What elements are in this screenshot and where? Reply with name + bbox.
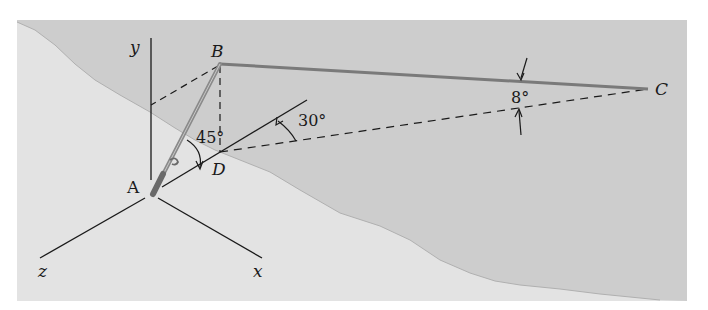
label-point-b: B bbox=[210, 41, 224, 61]
label-z-axis: z bbox=[37, 261, 48, 281]
label-y-axis: y bbox=[129, 37, 140, 57]
label-point-c: C bbox=[655, 79, 668, 99]
label-x-axis: x bbox=[253, 261, 263, 281]
label-point-d: D bbox=[211, 159, 226, 179]
label-angle-45: 45° bbox=[196, 128, 224, 147]
label-angle-30: 30° bbox=[298, 111, 326, 130]
label-point-a: A bbox=[126, 177, 140, 197]
diagram-canvas: y B C D A z x 45° 30° 8° bbox=[0, 0, 708, 310]
diagram: y B C D A z x 45° 30° 8° bbox=[0, 0, 708, 310]
label-angle-8: 8° bbox=[511, 88, 529, 107]
